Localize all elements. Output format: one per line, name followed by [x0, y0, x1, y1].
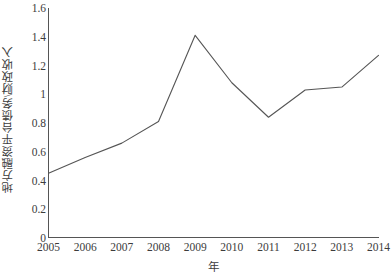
y-tick-label: 1.4	[32, 31, 46, 43]
data-series-line	[49, 35, 379, 173]
x-tick-label: 2009	[184, 241, 207, 253]
x-tick-label: 2007	[110, 241, 133, 253]
plot-area	[48, 8, 379, 238]
y-tick-label: 0.8	[32, 117, 46, 129]
x-tick-label: 2010	[220, 241, 243, 253]
line-chart: 地方融资平台债务\财政收入 00.20.40.60.811.21.41.6 20…	[0, 0, 391, 277]
y-tick-label: 0.2	[32, 203, 46, 215]
x-tick-label: 2006	[74, 241, 97, 253]
x-tick-label: 2005	[37, 241, 60, 253]
y-tick-label: 0.6	[32, 146, 46, 158]
x-axis-title: 年	[48, 258, 379, 274]
y-tick-label: 1	[40, 88, 46, 100]
x-axis-tick-labels: 2005200620072008200920102011201220132014	[48, 241, 379, 257]
y-tick-label: 1.6	[32, 2, 46, 14]
x-tick-label: 2014	[367, 241, 390, 253]
y-tick-label: 1.2	[32, 60, 46, 72]
y-tick-label: 0.4	[32, 175, 46, 187]
x-tick-label: 2013	[330, 241, 353, 253]
x-tick-label: 2008	[147, 241, 170, 253]
x-tick-label: 2011	[257, 241, 280, 253]
y-axis-tick-labels: 00.20.40.60.811.21.41.6	[16, 0, 46, 240]
plot-svg	[48, 8, 379, 238]
x-tick-label: 2012	[294, 241, 317, 253]
y-axis-title-text: 地方融资平台债务\财政收入	[3, 46, 15, 193]
